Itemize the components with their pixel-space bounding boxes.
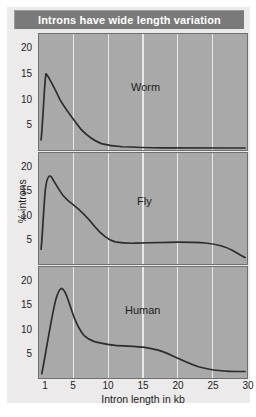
y-tick-1-2: 10 xyxy=(2,211,32,221)
page-title: Introns have wide length variation xyxy=(38,15,221,26)
y-tick-0-0: 20 xyxy=(2,43,32,53)
panel-label-worm: Worm xyxy=(131,82,160,93)
x-tick-3: 15 xyxy=(137,381,148,391)
y-tick-2-3: 5 xyxy=(2,349,32,359)
y-tick-1-0: 20 xyxy=(2,162,32,172)
x-tick-5: 25 xyxy=(207,381,218,391)
panel-label-fly: Fly xyxy=(137,196,152,207)
y-tick-2-1: 15 xyxy=(2,300,32,310)
x-tick-6: 30 xyxy=(242,381,253,391)
y-axis-label: % introns xyxy=(17,171,28,231)
panel-human xyxy=(38,266,248,379)
y-tick-1-1: 15 xyxy=(2,186,32,196)
figure-root: Introns have wide length variation % int… xyxy=(0,0,256,417)
panel-human-plot xyxy=(39,267,247,378)
y-tick-2-2: 10 xyxy=(2,325,32,335)
chart-title-bar: Introns have wide length variation xyxy=(14,10,244,29)
gridlines-human xyxy=(74,267,213,378)
x-tick-0: 1 xyxy=(42,381,48,391)
panel-label-human: Human xyxy=(125,305,160,316)
panel-fly xyxy=(38,152,248,265)
x-tick-1: 5 xyxy=(70,381,76,391)
y-tick-1-3: 5 xyxy=(2,235,32,245)
gridlines-fly xyxy=(74,153,213,264)
x-tick-2: 10 xyxy=(102,381,113,391)
panel-fly-plot xyxy=(39,153,247,264)
x-tick-labels: 151015202530 xyxy=(38,381,248,393)
y-tick-0-2: 10 xyxy=(2,95,32,105)
y-tick-2-0: 20 xyxy=(2,276,32,286)
y-tick-0-1: 15 xyxy=(2,69,32,79)
y-tick-0-3: 5 xyxy=(2,120,32,130)
x-axis-label: Intron length in kb xyxy=(38,394,248,405)
x-tick-4: 20 xyxy=(172,381,183,391)
